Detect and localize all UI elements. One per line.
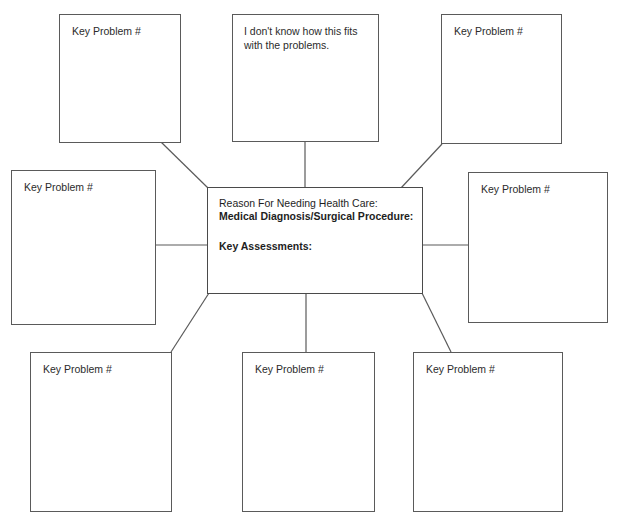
connector-bottom-right	[422, 293, 451, 352]
node-top-right-label: Key Problem #	[454, 24, 553, 38]
center-reason-label: Reason For Needing Health Care:	[219, 197, 414, 210]
center-diagnosis-label: Medical Diagnosis/Surgical Procedure:	[219, 210, 414, 223]
node-middle-left-label: Key Problem #	[24, 180, 147, 194]
node-top-middle-label: I don't know how this fits with the prob…	[244, 24, 364, 52]
node-middle-left[interactable]: Key Problem #	[11, 170, 156, 325]
node-middle-right-label: Key Problem #	[481, 182, 599, 196]
connector-bottom-left	[171, 293, 209, 352]
node-top-left-label: Key Problem #	[72, 24, 172, 38]
node-bottom-right[interactable]: Key Problem #	[413, 352, 563, 512]
node-bottom-right-label: Key Problem #	[426, 362, 554, 376]
node-bottom-middle[interactable]: Key Problem #	[242, 352, 375, 512]
node-bottom-left-label: Key Problem #	[43, 362, 163, 376]
node-top-middle[interactable]: I don't know how this fits with the prob…	[232, 14, 379, 142]
node-middle-right[interactable]: Key Problem #	[468, 172, 608, 323]
connector-top-left	[161, 142, 208, 188]
connector-top-right	[401, 144, 442, 188]
node-bottom-left[interactable]: Key Problem #	[30, 352, 172, 512]
concept-map-canvas: Key Problem # I don't know how this fits…	[0, 0, 617, 523]
node-bottom-middle-label: Key Problem #	[255, 362, 366, 376]
node-top-left[interactable]: Key Problem #	[59, 14, 181, 143]
node-center[interactable]: Reason For Needing Health Care: Medical …	[207, 187, 423, 294]
center-key-assessments-label: Key Assessments:	[219, 240, 414, 253]
node-top-right[interactable]: Key Problem #	[441, 14, 562, 144]
